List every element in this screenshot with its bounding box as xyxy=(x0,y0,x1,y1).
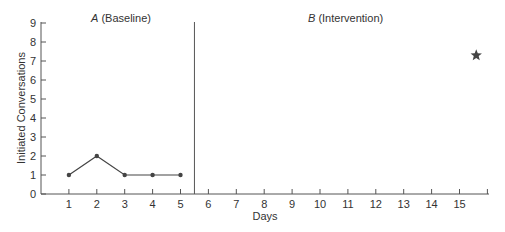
x-tick-label: 3 xyxy=(122,198,128,210)
data-point xyxy=(150,173,154,177)
y-axis-label: Initiated Conversations xyxy=(15,52,27,164)
x-tick-label: 13 xyxy=(398,198,410,210)
y-tick-label: 8 xyxy=(30,36,36,48)
data-point xyxy=(123,173,127,177)
x-tick-label: 5 xyxy=(177,198,183,210)
data-point xyxy=(178,173,182,177)
x-tick-label: 2 xyxy=(94,198,100,210)
y-tick-label: 0 xyxy=(30,188,36,200)
star-icon xyxy=(471,49,482,60)
data-point xyxy=(95,154,99,158)
x-tick-label: 4 xyxy=(150,198,156,210)
x-tick-label: 9 xyxy=(289,198,295,210)
y-tick-label: 1 xyxy=(30,169,36,181)
baseline-series xyxy=(67,154,183,177)
x-tick-label: 12 xyxy=(370,198,382,210)
data-point xyxy=(67,173,71,177)
y-tick-label: 2 xyxy=(30,150,36,162)
x-tick-label: 15 xyxy=(453,198,465,210)
phase-b-label: B (Intervention) xyxy=(308,12,383,24)
y-tick-label: 7 xyxy=(30,55,36,67)
y-tick-label: 4 xyxy=(30,112,36,124)
annotations xyxy=(471,49,482,60)
x-tick-label: 6 xyxy=(205,198,211,210)
y-tick-label: 3 xyxy=(30,131,36,143)
x-tick-label: 10 xyxy=(314,198,326,210)
x-tick-label: 14 xyxy=(425,198,437,210)
y-tick-label: 6 xyxy=(30,74,36,86)
chart: 0123456789 123456789101112131415 A (Base… xyxy=(0,0,505,232)
y-axis-ticks: 0123456789 xyxy=(30,17,46,200)
x-tick-label: 8 xyxy=(261,198,267,210)
y-tick-label: 5 xyxy=(30,93,36,105)
x-axis-ticks: 123456789101112131415 xyxy=(66,189,488,210)
x-tick-label: 7 xyxy=(233,198,239,210)
x-tick-label: 11 xyxy=(342,198,353,210)
phase-a-label: A (Baseline) xyxy=(90,12,151,24)
x-tick-label: 1 xyxy=(66,198,72,210)
x-axis-label: Days xyxy=(252,210,278,222)
y-tick-label: 9 xyxy=(30,17,36,29)
series-line xyxy=(69,156,181,175)
